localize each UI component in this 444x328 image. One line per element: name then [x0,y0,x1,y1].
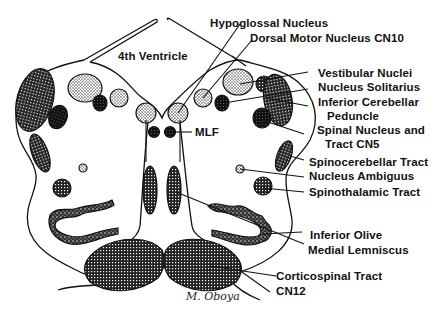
left-nucleus-solitarius [93,95,107,111]
medulla-diagram: 4th Ventricle Hypoglossal Nucleus Dorsal… [0,0,444,328]
left-corticospinal-tract [85,239,165,290]
left-spinothalamic [53,179,71,197]
label-vestibular-nuclei: Vestibular Nuclei [318,67,412,80]
right-medial-lemniscus [167,166,181,214]
label-inferior-cerebellar-line1: Inferior Cerebellar [318,96,419,109]
label-spinal-nucleus-line2: Tract CN5 [325,138,380,151]
label-spinocerebellar-tract: Spinocerebellar Tract [309,156,428,169]
label-corticospinal-tract: Corticospinal Tract [276,270,382,283]
right-mlf [165,127,176,138]
left-mlf [149,127,160,138]
label-hypoglossal-nucleus: Hypoglossal Nucleus [210,17,328,30]
label-spinothalamic-tract: Spinothalamic Tract [309,186,420,199]
label-cn12: CN12 [276,285,306,298]
label-inferior-olive: Inferior Olive [310,229,382,242]
label-medial-lemniscus: Medial Lemniscus [308,244,409,257]
right-spinal-tract-cn5 [253,108,271,128]
left-inferior-olive [49,200,118,244]
right-corticospinal-tract [164,239,242,290]
left-nucleus-ambiguus [79,164,87,172]
label-spinal-nucleus-line1: Spinal Nucleus and [317,124,425,137]
label-inferior-cerebellar-line2: Peduncle [327,110,379,123]
label-mlf: MLF [195,126,219,139]
artist-signature: M. Oboya [186,290,240,303]
right-spinothalamic-tract [254,177,272,195]
right-inferior-olive [208,204,271,245]
left-medial-lemniscus [143,166,157,214]
left-spinocerebellar [26,131,55,174]
right-spinocerebellar-tract [272,139,296,174]
label-4th-ventricle: 4th Ventricle [118,50,188,63]
label-nucleus-solitarius: Nucleus Solitarius [318,81,420,94]
left-dorsal-motor-cn10 [110,89,128,107]
label-dorsal-motor-nucleus: Dorsal Motor Nucleus CN10 [250,32,404,45]
label-nucleus-ambiguus: Nucleus Ambiguus [309,170,414,183]
left-structures [9,64,164,290]
